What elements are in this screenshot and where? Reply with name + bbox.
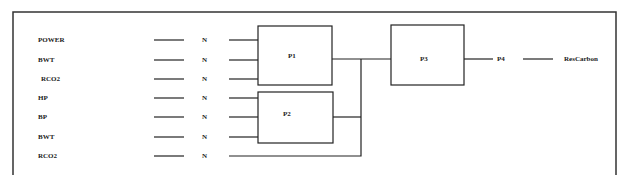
input-label-bp: BP (38, 113, 48, 121)
process-label-p3: P3 (420, 55, 428, 63)
node-n: N (202, 56, 207, 64)
node-n: N (202, 36, 207, 44)
input-label-bwt-1: BWT (38, 56, 55, 64)
node-n: N (202, 75, 207, 83)
node-labels: N N N N N N N (202, 36, 207, 160)
node-n: N (202, 133, 207, 141)
process-diagram: POWER BWT RCO2 HP BP BWT RCO2 N N N N N … (0, 0, 623, 175)
input-labels: POWER BWT RCO2 HP BP BWT RCO2 (38, 36, 65, 160)
input-label-power: POWER (38, 36, 65, 44)
process-label-p4: P4 (497, 55, 505, 63)
process-label-p1: P1 (288, 52, 296, 60)
node-n: N (202, 113, 207, 121)
input-label-bwt-2: BWT (38, 133, 55, 141)
process-p3: P3 (391, 25, 464, 85)
node-n: N (202, 94, 207, 102)
node-n: N (202, 152, 207, 160)
input-label-rco2-2: RCO2 (38, 152, 58, 160)
process-p2: P2 (258, 92, 333, 143)
process-box-p2 (258, 92, 333, 143)
process-label-p2: P2 (283, 110, 291, 118)
input-label-rco2-1: RCO2 (41, 75, 61, 83)
process-p1: P1 (258, 26, 332, 85)
input-dashes (154, 40, 184, 156)
output-label-rescarbon: ResCarbon (564, 55, 598, 63)
input-label-hp: HP (38, 94, 48, 102)
